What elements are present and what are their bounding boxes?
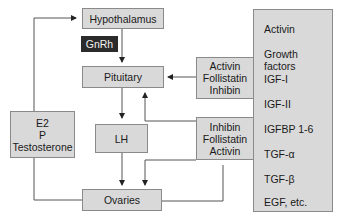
hypothalamus-node: Hypothalamus xyxy=(82,8,164,29)
lh-label: LH xyxy=(115,133,128,145)
ovaries-label: Ovaries xyxy=(104,194,140,206)
ovarian-regulators-node: Inhibin Follistatin Activin xyxy=(196,117,254,160)
gnrh-label: GnRh xyxy=(81,36,118,52)
regulator-follistatin: Follistatin xyxy=(203,72,247,84)
regulator-activin: Activin xyxy=(210,60,241,72)
factor-item: IGF-I xyxy=(264,73,288,85)
factor-item: Activin xyxy=(264,23,295,35)
factor-list: Activin Growth factors IGF-I IGF-II IGFB… xyxy=(253,9,333,212)
factor-item: TGF-β xyxy=(264,173,295,185)
regulator-inhibin: Inhibin xyxy=(210,84,241,96)
regulator-inhibin: Inhibin xyxy=(210,121,241,133)
factor-item: IGF-II xyxy=(264,98,291,110)
pituitary-label: Pituitary xyxy=(104,71,142,83)
factor-item: Growth factors xyxy=(264,48,332,72)
regulator-activin: Activin xyxy=(210,145,241,157)
factor-item: EGF, etc. xyxy=(264,196,307,208)
regulator-follistatin: Follistatin xyxy=(203,133,247,145)
hypothalamus-label: Hypothalamus xyxy=(89,13,156,25)
gnrh-text: GnRh xyxy=(86,38,113,50)
pituitary-node: Pituitary xyxy=(82,66,164,88)
steroids-node: E2 P Testosterone xyxy=(10,111,75,158)
steroid-e2: E2 xyxy=(36,117,49,129)
factor-item: TGF-α xyxy=(264,148,295,160)
lh-node: LH xyxy=(95,124,148,153)
ovaries-node: Ovaries xyxy=(82,189,162,211)
pituitary-regulators-node: Activin Follistatin Inhibin xyxy=(196,57,254,99)
steroid-testosterone: Testosterone xyxy=(12,141,72,153)
factor-item: IGFBP 1-6 xyxy=(264,123,313,135)
steroid-p: P xyxy=(39,129,46,141)
